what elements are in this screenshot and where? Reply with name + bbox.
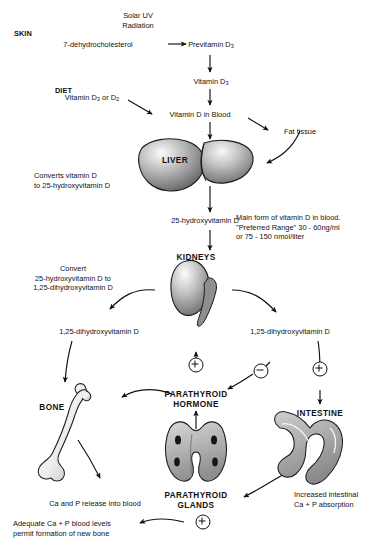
organ-label-parathyroid-hormone: PARATHYROID HORMONE (164, 390, 227, 409)
diet-vitamin-text: Vitamin D (65, 93, 97, 102)
note-blood-reference-range: Main form of vitamin D in blood. "Prefer… (236, 213, 341, 242)
organ-label-kidneys: KIDNEYS (176, 253, 215, 262)
diet-vitamin-subscript-2: 2 (116, 96, 119, 102)
note-adequate-ca-p-levels: Adequate Ca + P blood levels permit form… (13, 519, 111, 538)
node-dihydroxyvitamin-d-left: 1,25-dihydroxyvitamin D (59, 327, 139, 336)
node-25-hydroxyvitamin-d: 25-hydroxyvitamin D (171, 216, 239, 225)
organ-label-intestine: INTESTINE (297, 409, 343, 418)
symbol-minus-inhibits-pth (254, 364, 269, 379)
organ-label-parathyroid-glands: PARATHYROID GLANDS (164, 491, 227, 510)
organ-label-liver: LIVER (162, 156, 188, 165)
arrow-diet-to-blood (128, 100, 152, 114)
node-diet-vitamin-d3-or-d2: Vitamin D3 or D2 (65, 93, 120, 105)
symbol-plus-pth-stimulates-kidney (189, 358, 204, 373)
node-fat-tissue: Fat tissue (284, 127, 316, 136)
vitamin-d3-text: Vitamin D (193, 77, 225, 86)
arrow-left-dihydroxy-to-bone (65, 341, 72, 382)
previtamin-d3-subscript: 3 (231, 43, 234, 49)
arrow-plus-to-adequate-levels (140, 519, 184, 523)
organ-label-bone: BONE (39, 403, 64, 412)
arrow-intestine-to-plus (244, 473, 286, 497)
arrow-kidney-to-left-note (110, 290, 155, 309)
note-liver-conversion: Converts vitamin D to 25-hydroxyvitamin … (34, 171, 110, 190)
node-vitamin-d3: Vitamin D3 (193, 77, 228, 89)
node-vitamin-d-in-blood: Vitamin D in Blood (169, 110, 230, 119)
arrow-inhibit-to-pth (228, 374, 253, 389)
note-intestinal-absorption: Increased intestinal Ca + P absorption (294, 490, 358, 509)
bone-illustration (38, 384, 91, 481)
vitamin-d3-subscript: 3 (225, 80, 228, 86)
diet-vitamin-or-text: or D (100, 93, 116, 102)
note-ca-p-release: Ca and P release into blood (49, 499, 141, 508)
node-dehydrocholesterol: 7-dehydrocholesterol (63, 40, 132, 49)
thyroid-parathyroid-illustration (166, 422, 227, 481)
kidney-illustration (171, 260, 217, 326)
arrow-bone-to-ca-release (78, 440, 100, 478)
section-label-skin: SKIN (14, 29, 32, 38)
node-solar-uv-radiation: Solar UV Radiation (122, 11, 153, 30)
note-kidney-conversion: Convert 25-hydroxyvitamin D to 1,25-dihy… (33, 264, 113, 293)
node-dihydroxyvitamin-d-right: 1,25-dihydroxyvitamin D (250, 327, 330, 336)
node-previtamin-d3: Previtamin D3 (188, 40, 234, 52)
previtamin-d3-text: Previtamin D (188, 40, 231, 49)
liver-illustration (139, 139, 253, 191)
symbol-plus-stimulates-intestine (313, 362, 328, 377)
arrow-blood-to-fat (248, 118, 268, 130)
symbol-plus-glands-feedback (196, 515, 211, 530)
arrow-kidney-to-right-label (232, 290, 276, 312)
intestine-illustration (275, 412, 343, 484)
